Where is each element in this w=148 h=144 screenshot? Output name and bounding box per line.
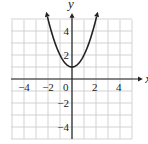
y-axis-arrow-icon (70, 13, 75, 18)
x-axis-arrow-icon (138, 77, 143, 82)
x-tick-label: 0 (63, 81, 69, 93)
y-tick-label: −4 (57, 121, 69, 133)
x-tick-label: 4 (116, 81, 122, 93)
y-tick-label: 2 (64, 49, 70, 61)
axes: x y (11, 0, 148, 139)
y-tick-label: 4 (64, 25, 70, 37)
x-tick-label: −2 (42, 81, 54, 93)
curve-arrow-icon (94, 12, 99, 17)
curve-arrow-icon (45, 12, 50, 17)
parabola-chart: x y −4−202442−2−4 (0, 0, 148, 144)
x-axis-label: x (144, 71, 148, 86)
x-tick-label: 2 (92, 81, 98, 93)
x-tick-label: −4 (18, 81, 30, 93)
y-tick-label: −2 (57, 97, 69, 109)
y-axis-label: y (66, 0, 74, 11)
